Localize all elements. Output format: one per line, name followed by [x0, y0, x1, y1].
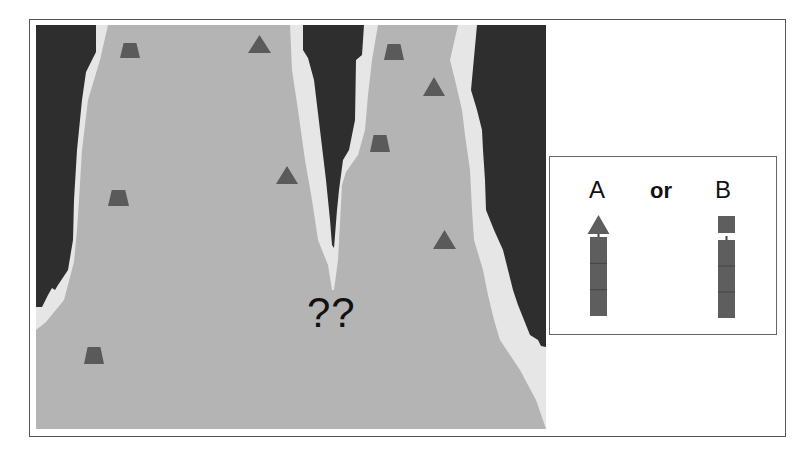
triangle-top-icon — [588, 215, 610, 234]
square-top-icon — [718, 216, 735, 233]
or-label: or — [650, 180, 672, 202]
option-b-label: B — [715, 178, 731, 202]
option-b-stack — [718, 216, 735, 318]
stack-body — [590, 237, 607, 316]
option-a-stack — [588, 215, 610, 316]
stack-body — [718, 240, 735, 318]
question-marks: ?? — [307, 292, 356, 334]
options-panel: A or B — [549, 156, 777, 335]
option-a-label: A — [589, 178, 605, 202]
